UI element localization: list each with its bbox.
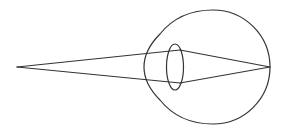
ray-top-incoming	[17, 50, 180, 67]
ray-bottom-refracted	[180, 67, 270, 83]
ray-bottom-incoming	[17, 67, 180, 83]
eyeball-outline	[144, 10, 270, 124]
eye-diagram	[0, 0, 287, 135]
ray-top-refracted	[180, 50, 270, 67]
